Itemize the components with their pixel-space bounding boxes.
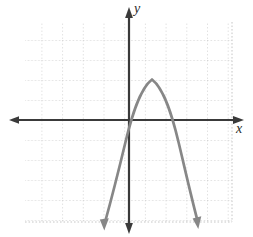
x-axis-label: x	[236, 122, 242, 136]
y-axis-top-arrowhead	[125, 7, 133, 18]
y-axis-bottom-arrowhead	[125, 223, 133, 234]
curve-right-arrowhead	[193, 216, 202, 229]
x-axis-left-arrowhead	[9, 116, 19, 124]
coordinate-plane	[0, 0, 253, 237]
graph-figure: y x	[0, 0, 253, 237]
y-axis-label: y	[134, 2, 140, 16]
curve-left-arrowhead	[100, 218, 109, 230]
